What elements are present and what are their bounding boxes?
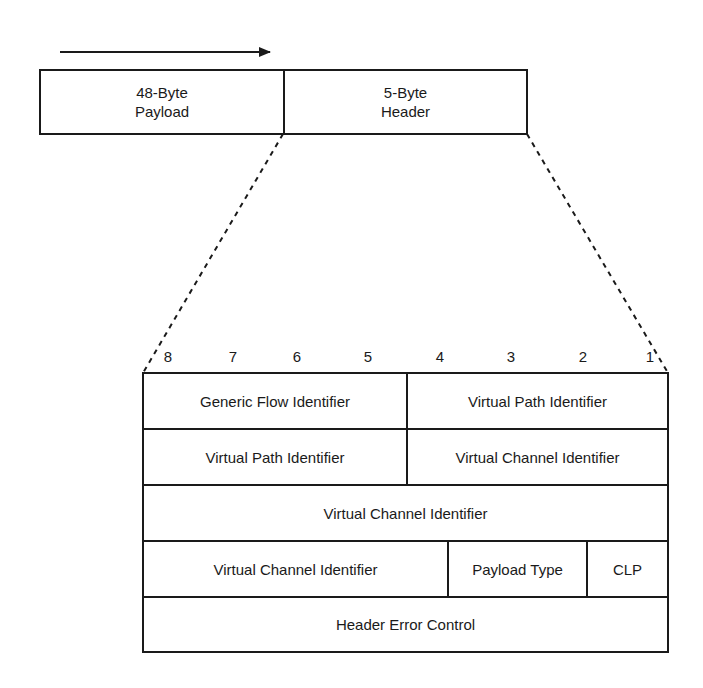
header-size-label: 5-Byte (381, 83, 430, 102)
header-label: Header (381, 102, 430, 121)
bit-number-6: 6 (287, 348, 307, 365)
zoom-dashed-line-left (143, 134, 283, 373)
bit-number-7: 7 (223, 348, 243, 365)
payload-size-label: 48-Byte (135, 83, 189, 102)
payload-label: Payload (135, 102, 189, 121)
payload-block: 48-Byte Payload (39, 69, 285, 135)
bit-number-1: 1 (640, 348, 660, 365)
field-payload-type: Payload Type (448, 541, 587, 597)
bit-number-2: 2 (573, 348, 593, 365)
header-block: 5-Byte Header (283, 69, 528, 135)
field-generic-flow-identifier: Generic Flow Identifier (143, 373, 407, 429)
bit-number-5: 5 (358, 348, 378, 365)
bit-number-3: 3 (501, 348, 521, 365)
field-virtual-path-identifier-2: Virtual Path Identifier (143, 429, 407, 485)
field-virtual-channel-identifier-2: Virtual Channel Identifier (143, 485, 668, 541)
field-clp: CLP (587, 541, 668, 597)
field-virtual-path-identifier-1: Virtual Path Identifier (407, 373, 668, 429)
bit-number-4: 4 (430, 348, 450, 365)
field-virtual-channel-identifier-3: Virtual Channel Identifier (143, 541, 448, 597)
bit-number-8: 8 (158, 348, 178, 365)
field-virtual-channel-identifier-1: Virtual Channel Identifier (407, 429, 668, 485)
zoom-dashed-line-right (527, 134, 668, 373)
field-header-error-control: Header Error Control (143, 597, 668, 652)
